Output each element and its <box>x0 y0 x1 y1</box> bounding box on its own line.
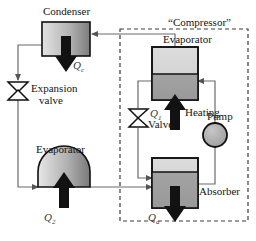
absorber-heat-symbol: Q <box>148 211 156 223</box>
pipe-absorber-to-pump <box>198 147 215 184</box>
evaporator-left-heat-symbol: Q <box>44 211 52 223</box>
pipe-expansion-to-evaporator <box>18 100 38 187</box>
absorber-label: Absorber <box>199 186 240 197</box>
compressor-box-label: “Compressor” <box>168 17 231 28</box>
evaporator-left-heat-label: Q2 <box>44 212 55 226</box>
inner-valve-symbol <box>129 109 148 127</box>
evaporator-left-heat-subscript: 2 <box>52 218 56 226</box>
absorber-heat-subscript: a <box>156 218 160 226</box>
generator-label: Evaporator <box>163 34 212 45</box>
condenser-heat-symbol: Q <box>73 59 81 71</box>
condenser-heat-label: Qc <box>73 60 84 74</box>
expansion-valve-symbol <box>8 82 28 100</box>
condenser-heat-subscript: c <box>81 66 84 74</box>
pump-symbol <box>203 123 227 147</box>
pipe-condenser-to-expansion <box>18 45 42 80</box>
expansion-valve-label-line1: Expansion <box>31 83 77 94</box>
evaporator-left-label: Evaporator <box>36 144 85 155</box>
condenser-label: Condenser <box>43 6 90 17</box>
absorber-heat-label: Qa <box>148 212 159 226</box>
pump-label: Pump <box>207 111 233 122</box>
diagram-canvas: Condenser Qc Expansion valve Evaporator … <box>0 0 256 241</box>
expansion-valve-label-line2: valve <box>39 95 63 106</box>
inner-valve-label: Valve <box>148 119 173 130</box>
pipe-valve-to-absorber <box>138 128 152 178</box>
pipe-generator-to-valve <box>138 81 152 108</box>
